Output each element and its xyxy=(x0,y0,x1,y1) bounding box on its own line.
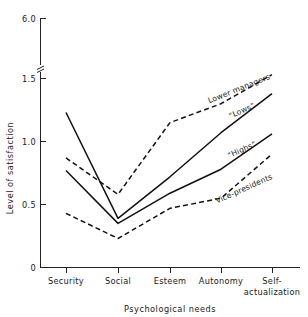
y-tick-labels-group: 6.0 1.5 1.0 0.5 0 xyxy=(22,14,36,273)
x-tick-label-self: Self- xyxy=(262,276,281,286)
annotation-vice-presidents: Vice-presidents xyxy=(214,172,274,205)
y-tick-label-1-0: 1.0 xyxy=(22,137,36,147)
satisfaction-line-chart: 6.0 1.5 1.0 0.5 0 Level of satisfaction … xyxy=(0,0,308,317)
y-tick-label-1-5: 1.5 xyxy=(22,74,36,84)
x-ticks-group xyxy=(67,268,273,273)
y-tick-label-0-5: 0.5 xyxy=(22,200,36,210)
y-ticks-group xyxy=(41,19,46,268)
chart-container: 6.0 1.5 1.0 0.5 0 Level of satisfaction … xyxy=(0,0,308,317)
x-tick-label-social: Social xyxy=(105,276,131,286)
series-line-vice-presidents xyxy=(66,154,272,238)
series-group xyxy=(66,75,272,239)
x-tick-labels-group: Security Social Esteem Autonomy Self- ac… xyxy=(48,276,300,297)
x-tick-label-esteem: Esteem xyxy=(154,276,187,286)
annotation-highs: “Highs” xyxy=(226,139,257,160)
x-tick-label-autonomy: Autonomy xyxy=(199,276,243,286)
y-axis-break-icon xyxy=(37,66,44,73)
y-tick-label-6-0: 6.0 xyxy=(22,14,36,24)
y-axis-title: Level of satisfaction xyxy=(5,122,15,214)
y-tick-label-0: 0 xyxy=(30,263,36,273)
x-axis-title: Psychological needs xyxy=(124,304,216,314)
x-tick-label-actualization: actualization xyxy=(244,287,300,297)
axes-group xyxy=(41,18,301,268)
x-tick-label-security: Security xyxy=(48,276,84,286)
annotation-lower-managers: Lower managers xyxy=(207,72,272,105)
